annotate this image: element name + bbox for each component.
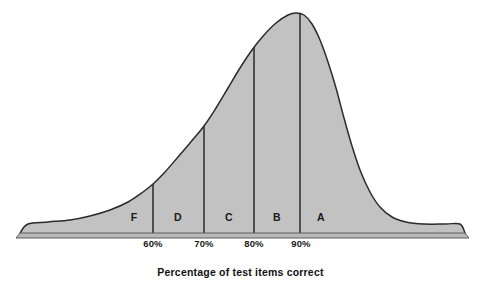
grade-label-d: D (174, 211, 182, 223)
x-axis-caption: Percentage of test items correct (0, 266, 481, 278)
grade-label-f: F (131, 211, 138, 223)
x-axis-baseline (16, 233, 469, 238)
grade-label-a: A (317, 211, 325, 223)
x-tick-label-60: 60% (143, 238, 162, 249)
grade-label-c: C (225, 211, 233, 223)
grade-distribution-figure: F D C B A 60% 70% 80% 90% Percentage of … (0, 0, 481, 282)
x-tick-label-90: 90% (291, 238, 310, 249)
distribution-area (20, 13, 465, 233)
bell-curve-chart (0, 0, 481, 282)
x-tick-label-70: 70% (194, 238, 213, 249)
x-tick-label-80: 80% (244, 238, 263, 249)
grade-label-b: B (273, 211, 281, 223)
